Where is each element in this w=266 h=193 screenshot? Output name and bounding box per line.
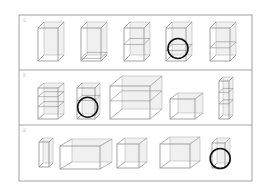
- depth-edge: [170, 113, 178, 119]
- cuboid: [219, 77, 233, 119]
- row-label: ①: [22, 17, 26, 23]
- cuboid: [210, 138, 230, 169]
- cuboid: [77, 83, 100, 119]
- depth-edge: [38, 22, 44, 28]
- cuboid: [166, 22, 192, 61]
- depth-edge: [38, 55, 44, 61]
- depth-edge: [100, 162, 112, 169]
- cuboid: [38, 83, 64, 119]
- depth-edge: [117, 162, 125, 168]
- cuboid: [39, 138, 53, 167]
- depth-edge: [39, 138, 43, 142]
- depth-edge: [38, 114, 44, 119]
- depth-edge: [186, 55, 192, 61]
- depth-edge: [166, 22, 172, 28]
- cuboid: [210, 22, 236, 61]
- cuboid: [110, 76, 162, 119]
- cuboid: [170, 93, 203, 119]
- depth-edge: [110, 76, 122, 86]
- row-label: ②: [22, 72, 26, 78]
- depth-edge: [39, 163, 43, 167]
- depth-edge: [139, 162, 147, 168]
- depth-edge: [124, 22, 130, 28]
- depth-edge: [210, 55, 216, 61]
- cuboid: [160, 137, 200, 168]
- depth-edge: [210, 22, 216, 28]
- depth-edge: [49, 163, 53, 167]
- depth-edge: [229, 115, 233, 119]
- depth-edge: [160, 161, 170, 168]
- depth-edge: [212, 138, 217, 143]
- back-face: [216, 22, 236, 55]
- depth-edge: [195, 113, 203, 119]
- back-face: [87, 22, 107, 55]
- depth-edge: [95, 114, 100, 119]
- depth-edge: [190, 161, 200, 168]
- depth-edge: [219, 77, 223, 81]
- row-label: ③: [22, 127, 26, 133]
- cuboid: [117, 138, 147, 168]
- cuboid: [38, 22, 64, 61]
- back-face: [44, 22, 64, 55]
- depth-edge: [81, 55, 87, 61]
- depth-edge: [117, 138, 125, 144]
- depth-edge: [160, 137, 170, 144]
- depth-edge: [60, 139, 72, 146]
- cuboid: [81, 22, 107, 61]
- depth-edge: [58, 55, 64, 61]
- depth-edge: [58, 114, 64, 119]
- depth-edge: [38, 83, 44, 88]
- depth-edge: [219, 115, 223, 119]
- depth-edge: [144, 55, 150, 61]
- back-face: [125, 138, 147, 162]
- depth-edge: [81, 22, 87, 28]
- depth-edge: [150, 109, 162, 119]
- cuboid: [124, 22, 150, 61]
- depth-edge: [77, 83, 82, 88]
- box-puzzle-figure: [0, 0, 266, 193]
- depth-edge: [110, 109, 122, 119]
- depth-edge: [230, 55, 236, 61]
- back-face: [217, 138, 230, 163]
- back-face: [170, 137, 200, 161]
- depth-edge: [170, 93, 178, 99]
- depth-edge: [60, 162, 72, 169]
- depth-edge: [101, 55, 107, 61]
- back-face: [223, 77, 233, 115]
- cuboid: [60, 139, 112, 169]
- depth-edge: [124, 55, 130, 61]
